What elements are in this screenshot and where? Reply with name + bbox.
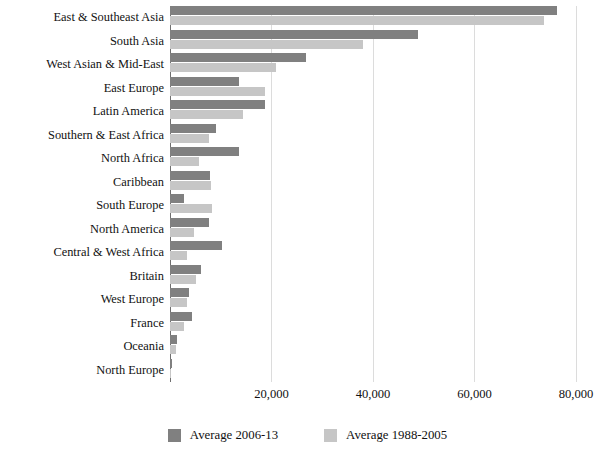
category-label: Central & West Africa bbox=[0, 246, 164, 259]
bar-recent bbox=[170, 30, 418, 39]
category-label: France bbox=[0, 317, 164, 330]
bar-recent bbox=[170, 171, 210, 180]
gridline-80000 bbox=[576, 6, 577, 382]
bar-recent bbox=[170, 100, 265, 109]
bar-older bbox=[170, 63, 276, 72]
category-label: Southern & East Africa bbox=[0, 129, 164, 142]
category-label: East & Southeast Asia bbox=[0, 11, 164, 24]
bar-older bbox=[170, 110, 243, 119]
bar-recent bbox=[170, 77, 239, 86]
x-tick-label: 40,000 bbox=[333, 387, 413, 402]
bar-recent bbox=[170, 335, 177, 344]
bar-older bbox=[170, 275, 196, 284]
category-label: Caribbean bbox=[0, 176, 164, 189]
bar-older bbox=[170, 16, 544, 25]
category-label: South Asia bbox=[0, 35, 164, 48]
category-label: Latin America bbox=[0, 105, 164, 118]
bar-recent bbox=[170, 124, 216, 133]
x-tick-label: 80,000 bbox=[536, 387, 615, 402]
bar-recent bbox=[170, 359, 172, 368]
category-axis-labels: East & Southeast AsiaSouth AsiaWest Asia… bbox=[0, 6, 164, 382]
bar-older bbox=[170, 157, 199, 166]
category-label: North Africa bbox=[0, 152, 164, 165]
bar-recent bbox=[170, 147, 239, 156]
bar-older bbox=[170, 228, 194, 237]
legend-swatch-icon bbox=[168, 429, 181, 442]
category-label: Oceania bbox=[0, 340, 164, 353]
legend-item[interactable]: Average 2006-13 bbox=[168, 428, 278, 443]
bar-older bbox=[170, 298, 187, 307]
bar-recent bbox=[170, 288, 189, 297]
legend-item[interactable]: Average 1988-2005 bbox=[324, 428, 447, 443]
x-tick-label: 60,000 bbox=[435, 387, 515, 402]
bar-older bbox=[170, 87, 265, 96]
category-label: North America bbox=[0, 223, 164, 236]
bar-older bbox=[170, 181, 211, 190]
plot-area bbox=[170, 6, 576, 382]
bar-older bbox=[170, 204, 212, 213]
bar-older bbox=[170, 345, 176, 354]
bar-recent bbox=[170, 312, 192, 321]
category-label: West Asian & Mid-East bbox=[0, 58, 164, 71]
bar-recent bbox=[170, 241, 222, 250]
category-label: North Europe bbox=[0, 364, 164, 377]
bar-chart: East & Southeast AsiaSouth AsiaWest Asia… bbox=[0, 0, 615, 458]
bar-older bbox=[170, 322, 184, 331]
bar-recent bbox=[170, 218, 209, 227]
chart-legend: Average 2006-13Average 1988-2005 bbox=[0, 424, 615, 446]
category-label: West Europe bbox=[0, 293, 164, 306]
legend-label: Average 2006-13 bbox=[190, 428, 278, 443]
category-label: Britain bbox=[0, 270, 164, 283]
bar-older bbox=[170, 369, 171, 378]
bar-older bbox=[170, 251, 187, 260]
bar-older bbox=[170, 40, 363, 49]
category-label: East Europe bbox=[0, 82, 164, 95]
legend-swatch-icon bbox=[324, 429, 337, 442]
bar-recent bbox=[170, 6, 557, 15]
bar-recent bbox=[170, 265, 201, 274]
bar-recent bbox=[170, 53, 306, 62]
bar-recent bbox=[170, 194, 184, 203]
bar-older bbox=[170, 134, 209, 143]
legend-label: Average 1988-2005 bbox=[346, 428, 447, 443]
category-label: South Europe bbox=[0, 199, 164, 212]
x-tick-label: 20,000 bbox=[232, 387, 312, 402]
